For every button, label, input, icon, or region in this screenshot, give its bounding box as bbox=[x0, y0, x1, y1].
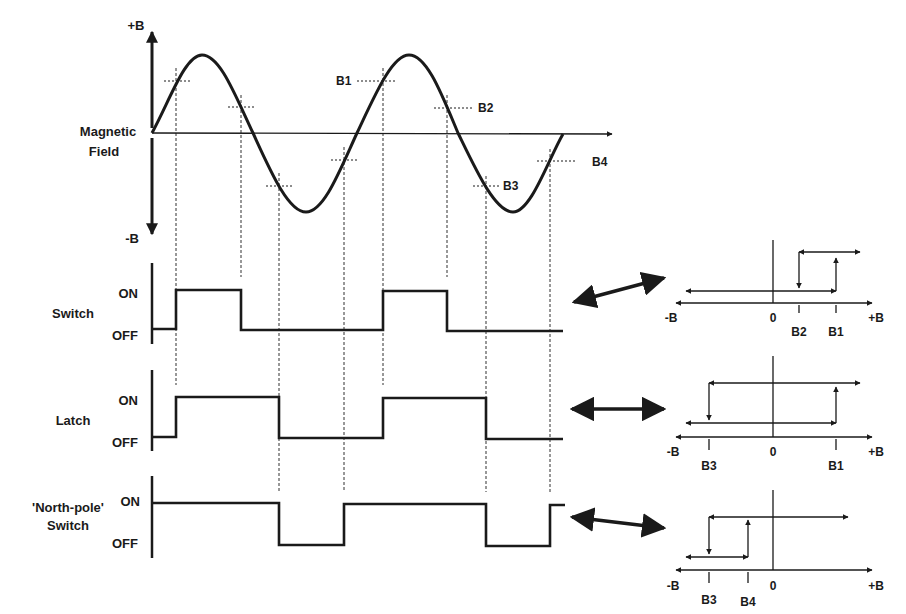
h3-zero: 0 bbox=[770, 579, 777, 593]
minus-b-label: -B bbox=[125, 231, 139, 246]
north-pole-label-line2: Switch bbox=[47, 518, 89, 533]
h3-plus-b: +B bbox=[868, 579, 884, 593]
north-pole-label-line1: 'North-pole' bbox=[32, 500, 104, 515]
latch-hysteresis bbox=[676, 356, 872, 450]
magnetic-field-plot: +B -B Magnetic Field B1 B2 B3 B4 bbox=[80, 18, 612, 246]
h2-b1: B1 bbox=[828, 459, 844, 473]
north-pole-switch-row: 'North-pole' Switch ON OFF bbox=[32, 476, 565, 558]
h2-b3: B3 bbox=[701, 459, 717, 473]
h2-minus-b: -B bbox=[667, 445, 680, 459]
time-axis bbox=[152, 133, 612, 134]
h1-b1: B1 bbox=[828, 325, 844, 339]
h1-b2: B2 bbox=[791, 325, 807, 339]
b3-label: B3 bbox=[503, 179, 519, 193]
switch-label: Switch bbox=[52, 306, 94, 321]
latch-on-label: ON bbox=[119, 393, 139, 408]
h2-zero: 0 bbox=[770, 445, 777, 459]
latch-label: Latch bbox=[56, 413, 91, 428]
switch-double-arrow-icon bbox=[574, 278, 664, 302]
latch-waveform bbox=[152, 397, 563, 439]
hall-sensor-timing-diagram: +B -B Magnetic Field B1 B2 B3 B4 bbox=[0, 0, 906, 614]
h3-minus-b: -B bbox=[667, 579, 680, 593]
h1-plus-b: +B bbox=[868, 311, 884, 325]
b1-label: B1 bbox=[336, 74, 352, 88]
field-title-line2: Field bbox=[89, 144, 119, 159]
field-title-line1: Magnetic bbox=[80, 124, 136, 139]
h2-plus-b: +B bbox=[868, 445, 884, 459]
switch-hysteresis bbox=[676, 240, 872, 313]
north-pole-off-label: OFF bbox=[112, 536, 138, 551]
h1-zero: 0 bbox=[770, 311, 777, 325]
b2-label: B2 bbox=[478, 101, 494, 115]
h3-b4: B4 bbox=[740, 595, 756, 609]
north-pole-on-label: ON bbox=[121, 494, 141, 509]
north-pole-double-arrow-icon bbox=[572, 517, 664, 528]
switch-on-label: ON bbox=[119, 286, 139, 301]
plus-b-label: +B bbox=[128, 18, 145, 33]
switch-waveform bbox=[152, 290, 563, 331]
h1-minus-b: -B bbox=[665, 311, 678, 325]
b4-label: B4 bbox=[592, 155, 608, 169]
switch-off-label: OFF bbox=[112, 328, 138, 343]
h3-b3: B3 bbox=[701, 593, 717, 607]
latch-off-label: OFF bbox=[112, 435, 138, 450]
latch-row: Latch ON OFF bbox=[56, 370, 563, 451]
transition-guides bbox=[176, 68, 550, 492]
north-pole-waveform bbox=[152, 503, 565, 546]
north-pole-hysteresis bbox=[676, 490, 872, 583]
